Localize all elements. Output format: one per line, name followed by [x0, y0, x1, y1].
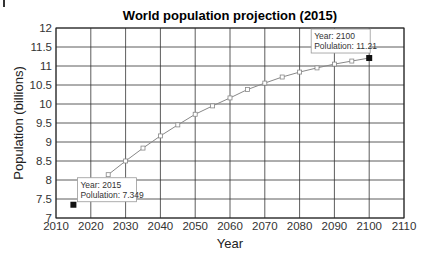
- data-point-marker: [263, 81, 267, 85]
- x-tick-label: 2070: [252, 220, 278, 232]
- data-point-marker: [211, 104, 215, 108]
- data-point-marker: [298, 70, 302, 74]
- data-point-marker: [228, 96, 232, 100]
- y-tick-label: 9: [46, 136, 52, 148]
- data-point-marker: [124, 159, 128, 163]
- series-line: [108, 58, 369, 175]
- data-point-marker: [193, 112, 197, 116]
- data-point-marker: [141, 146, 145, 150]
- x-tick-label: 2110: [392, 220, 417, 232]
- datatip-population: Polulation: 7.349: [80, 190, 144, 200]
- y-tick-label: 9.5: [36, 117, 52, 129]
- x-tick-label: 2080: [287, 220, 313, 232]
- data-point-marker: [106, 173, 110, 177]
- corner-artifact: [3, 0, 5, 7]
- data-point-marker: [158, 134, 162, 138]
- x-tick-label: 2100: [356, 220, 382, 232]
- x-tick-label: 2060: [217, 220, 243, 232]
- y-tick-label: 10: [39, 98, 52, 110]
- x-tick-label: 2010: [43, 220, 69, 232]
- population-chart: World population projection (2015) 77.58…: [0, 0, 428, 260]
- highlight-marker[interactable]: [366, 55, 372, 61]
- x-axis-ticks: 2010202020302040205020602070208020902100…: [43, 220, 416, 232]
- y-tick-label: 8: [46, 174, 52, 186]
- data-point-marker: [332, 62, 336, 66]
- data-series: [106, 58, 369, 177]
- y-tick-label: 7.5: [36, 193, 52, 205]
- x-tick-label: 2050: [182, 220, 208, 232]
- data-point-marker: [245, 88, 249, 92]
- y-axis-ticks: 77.588.599.51010.51111.512: [30, 22, 52, 224]
- x-tick-label: 2030: [113, 220, 139, 232]
- datatip-year: Year: 2100: [314, 31, 355, 41]
- x-tick-label: 2090: [322, 220, 348, 232]
- y-tick-label: 8.5: [36, 155, 52, 167]
- data-point-marker: [315, 66, 319, 70]
- data-point-marker: [176, 123, 180, 127]
- data-point-marker: [280, 75, 284, 79]
- chart-title: World population projection (2015): [123, 8, 337, 23]
- data-point-marker: [350, 59, 354, 63]
- x-tick-label: 2040: [148, 220, 174, 232]
- highlighted-points[interactable]: Year: 2015Polulation: 7.349Year: 2100Pol…: [70, 29, 377, 208]
- highlight-marker[interactable]: [70, 202, 76, 208]
- y-tick-label: 10.5: [30, 79, 52, 91]
- y-tick-label: 11.5: [30, 41, 52, 53]
- x-tick-label: 2020: [78, 220, 104, 232]
- y-tick-label: 11: [40, 60, 52, 72]
- x-axis-label: Year: [217, 236, 244, 251]
- y-tick-label: 12: [39, 22, 52, 34]
- datatip-population: Polulation: 11.21: [314, 41, 377, 51]
- datatip-year: Year: 2015: [80, 180, 121, 190]
- y-axis-label: Population (billions): [11, 66, 26, 179]
